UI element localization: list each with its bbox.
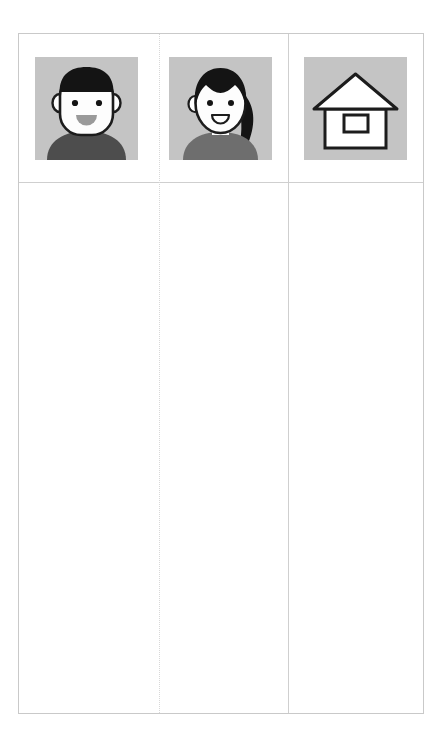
header-row bbox=[19, 34, 423, 182]
body-row bbox=[19, 182, 423, 713]
picture-card-grid bbox=[18, 33, 424, 714]
house-icon bbox=[304, 57, 407, 160]
body-cell-3[interactable] bbox=[288, 182, 423, 713]
female-avatar-icon bbox=[169, 57, 272, 160]
male-avatar-tile[interactable] bbox=[35, 57, 138, 160]
column-divider-dotted bbox=[159, 34, 161, 713]
female-avatar-tile[interactable] bbox=[169, 57, 272, 160]
header-cell-female[interactable] bbox=[154, 34, 289, 182]
body-cell-1[interactable] bbox=[19, 182, 154, 713]
house-tile[interactable] bbox=[304, 57, 407, 160]
column-divider-solid bbox=[288, 34, 289, 713]
header-cell-male[interactable] bbox=[19, 34, 154, 182]
body-cell-2[interactable] bbox=[154, 182, 289, 713]
header-cell-house[interactable] bbox=[288, 34, 423, 182]
male-avatar-icon bbox=[35, 57, 138, 160]
